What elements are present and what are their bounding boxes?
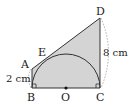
- center-o-dot: [64, 86, 67, 89]
- label-b: B: [27, 91, 35, 104]
- label-a: A: [20, 58, 30, 71]
- measure-ab: 2 cm: [6, 73, 31, 84]
- geometry-diagram: A B C D E O 2 cm 8 cm: [0, 0, 133, 107]
- label-c: C: [96, 91, 104, 104]
- measure-cd: 8 cm: [103, 47, 128, 58]
- label-e: E: [38, 46, 46, 59]
- label-d: D: [96, 5, 105, 18]
- label-o: O: [61, 91, 70, 104]
